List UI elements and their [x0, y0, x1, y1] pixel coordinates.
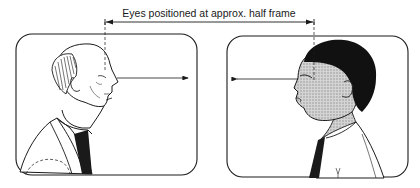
- dimension-line: [105, 19, 314, 25]
- framing-diagram: [0, 0, 420, 188]
- left-frame: [16, 22, 197, 175]
- right-frame: [227, 22, 408, 178]
